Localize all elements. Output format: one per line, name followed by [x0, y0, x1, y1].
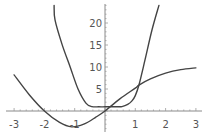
- x-tick-label: 2: [162, 119, 168, 130]
- x-tick-label: -1: [70, 119, 80, 130]
- x-tick-label: -3: [9, 119, 19, 130]
- y-tick-label: 10: [89, 62, 102, 73]
- chart-canvas: -3-2-1123 5101520: [0, 0, 206, 134]
- x-tick-label: -2: [39, 119, 49, 130]
- series-steep-curve: [54, 5, 159, 107]
- y-axis: 5101520: [89, 4, 108, 132]
- y-tick-label: 5: [96, 84, 102, 95]
- y-tick-label: 20: [89, 18, 102, 29]
- y-tick-label: 15: [89, 40, 102, 51]
- x-tick-label: 1: [132, 119, 138, 130]
- x-tick-label: 3: [193, 119, 199, 130]
